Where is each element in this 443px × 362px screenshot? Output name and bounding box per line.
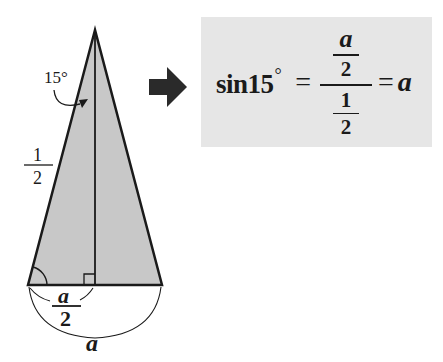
- denominator-fraction-bar: [333, 113, 359, 115]
- base-label: a: [86, 331, 98, 355]
- sine-formula: sin15° = a 2 1 2 = a: [216, 20, 412, 144]
- half-base-denominator: 2: [60, 308, 71, 330]
- side-label-denominator: 2: [33, 169, 42, 187]
- fraction-numerator: a 2: [333, 26, 359, 80]
- apex-angle-label: 15°: [44, 69, 68, 86]
- numerator-fraction-bar: [333, 54, 359, 56]
- side-denominator-text: 2: [33, 168, 42, 188]
- side-numerator-text: 1: [33, 145, 42, 165]
- sin-term: sin15°: [216, 65, 281, 100]
- equals-sign: =: [295, 66, 311, 98]
- apex-angle-text: 15°: [44, 68, 68, 87]
- equals-sign-2: =: [378, 66, 394, 98]
- half-base-denominator-text: 2: [60, 306, 71, 331]
- half-base-numerator: a: [58, 285, 69, 307]
- main-fraction-bar: [320, 84, 372, 86]
- side-label-numerator: 1: [33, 146, 42, 164]
- base-label-text: a: [86, 330, 98, 356]
- right-arrow-icon: [149, 67, 187, 107]
- fraction-denominator: 1 2: [333, 90, 359, 139]
- main-fraction: a 2 1 2: [320, 26, 372, 138]
- half-base-numerator-text: a: [58, 283, 69, 308]
- half-base-brace: [30, 288, 50, 301]
- degree-symbol: °: [275, 65, 282, 85]
- numerator-a: a: [340, 26, 353, 52]
- denominator-one: 1: [341, 90, 352, 111]
- result-a: a: [398, 66, 412, 98]
- sin-text: sin15: [216, 69, 274, 99]
- numerator-two: 2: [341, 59, 352, 80]
- denominator-two: 2: [341, 117, 352, 138]
- half-base-brace-right: [80, 288, 93, 300]
